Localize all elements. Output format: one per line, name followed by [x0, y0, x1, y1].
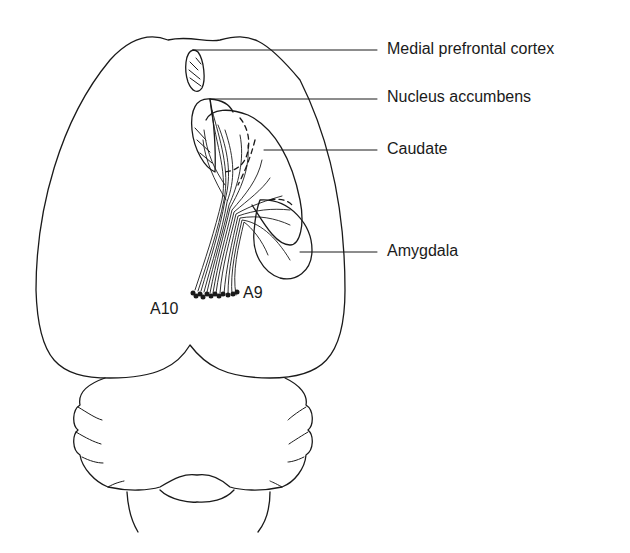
label-nucleus-accumbens: Nucleus accumbens — [387, 89, 531, 105]
amygdala-shape — [254, 200, 312, 279]
brainstem-left — [127, 492, 138, 532]
cerebellum-fold-right-2 — [289, 432, 308, 444]
vermis — [160, 490, 234, 502]
cerebellum-fold-right-4 — [270, 481, 282, 487]
cerebellum-fold-right-3 — [288, 457, 304, 462]
label-a10: A10 — [150, 301, 178, 317]
cerebellum-fold-left-1 — [78, 407, 102, 420]
label-a9: A9 — [243, 285, 263, 301]
cerebellum-outline — [74, 378, 313, 490]
brain-diagram — [0, 0, 630, 553]
medial-prefrontal-cortex-shape — [186, 50, 204, 91]
dopaminergic-fiber-bundle — [195, 100, 290, 295]
brainstem-right — [258, 492, 270, 532]
label-amygdala: Amygdala — [387, 243, 458, 259]
cerebellum-fold-left-4 — [108, 481, 124, 487]
cerebellum-fold-left-3 — [82, 457, 103, 463]
cerebellum-fold-right-1 — [288, 407, 306, 420]
cerebrum-outline — [36, 37, 345, 378]
label-caudate: Caudate — [387, 141, 448, 157]
cerebellum-fold-left-2 — [76, 432, 101, 444]
label-medial-prefrontal-cortex: Medial prefrontal cortex — [387, 41, 554, 57]
